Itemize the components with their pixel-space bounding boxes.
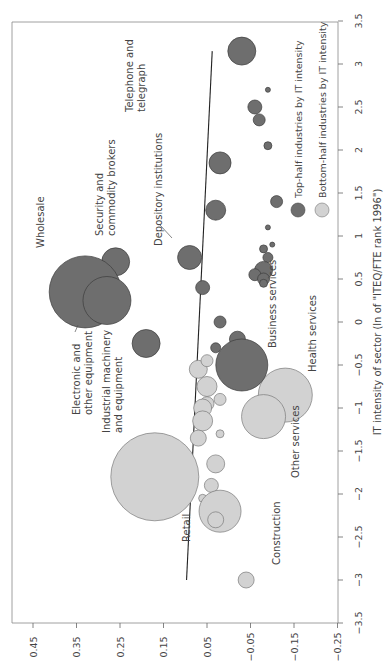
bubble bbox=[265, 225, 270, 230]
bubble bbox=[270, 242, 275, 247]
bubble bbox=[111, 433, 199, 521]
bubble bbox=[265, 87, 270, 92]
bubble bbox=[197, 377, 217, 397]
it-tick-label: −1 bbox=[353, 401, 364, 415]
label-health: Health services bbox=[307, 295, 318, 372]
it-tick-label: 1.5 bbox=[353, 185, 364, 200]
it-tick-label: 1 bbox=[353, 233, 364, 239]
growth-tick-label: −0.25 bbox=[332, 632, 343, 661]
legend-top-swatch bbox=[291, 203, 305, 217]
bubble bbox=[206, 200, 226, 220]
it-tick-label: −2 bbox=[353, 487, 364, 501]
bubble-chart: −3.5−3−2.5−2−1.5−1−0.500.511.522.533.5 0… bbox=[0, 0, 389, 670]
bubble bbox=[208, 512, 224, 528]
it-tick-label: 3 bbox=[353, 61, 364, 67]
legend-top-label: Top-half industries by IT intensity bbox=[293, 40, 304, 199]
bubble bbox=[253, 114, 265, 126]
bubble bbox=[83, 277, 131, 325]
legend-bottom-swatch bbox=[315, 203, 329, 217]
bubble bbox=[271, 196, 283, 208]
it-tick-label: 2.5 bbox=[353, 99, 364, 114]
label-wholesale: Wholesale bbox=[35, 196, 46, 248]
it-tick-label: 2 bbox=[353, 147, 364, 153]
label-construction: Construction bbox=[271, 501, 282, 565]
label-electronic: Electronic and other equipment bbox=[71, 331, 94, 415]
label-other: Other services bbox=[290, 405, 301, 478]
growth-axis: 0.450.350.250.150.05−0.05−0.15−0.25 bbox=[28, 623, 344, 662]
growth-tick-label: −0.05 bbox=[245, 632, 256, 661]
bubble bbox=[196, 281, 210, 295]
bubble bbox=[216, 339, 268, 391]
bottom-half-bubbles bbox=[111, 355, 312, 588]
bubble bbox=[193, 411, 213, 431]
bubble bbox=[238, 572, 254, 588]
bubble bbox=[211, 343, 221, 353]
bubble bbox=[242, 395, 286, 439]
label-security: Security and commodity brokers bbox=[94, 139, 117, 236]
bubble bbox=[201, 355, 213, 367]
it-tick-label: 0.5 bbox=[353, 271, 364, 286]
bubble bbox=[209, 152, 231, 174]
bubble bbox=[214, 393, 226, 405]
it-tick-label: 0 bbox=[353, 319, 364, 325]
growth-tick-label: 0.15 bbox=[158, 636, 169, 657]
legend: Top-half industries by IT intensity Bott… bbox=[291, 21, 329, 217]
growth-tick-label: 0.05 bbox=[202, 636, 213, 657]
bubble bbox=[207, 455, 225, 473]
bubble bbox=[132, 330, 160, 358]
it-tick-label: −1.5 bbox=[353, 439, 364, 462]
it-tick-label: −2.5 bbox=[353, 525, 364, 548]
bubble bbox=[216, 430, 224, 438]
it-tick-label: −3.5 bbox=[353, 611, 364, 634]
label-retail: Retail bbox=[181, 514, 192, 542]
it-axis-title: IT intensity of sector (ln of "ITEQ/FTE … bbox=[372, 189, 383, 436]
growth-tick-label: 0.25 bbox=[115, 636, 126, 657]
it-intensity-axis: −3.5−3−2.5−2−1.5−1−0.500.511.522.533.5 bbox=[338, 13, 364, 634]
bubble bbox=[248, 100, 262, 114]
bubble bbox=[260, 245, 268, 253]
bubble bbox=[190, 430, 206, 446]
label-industrial: Industrial machinery and equipment bbox=[101, 327, 124, 433]
legend-bottom-label: Bottom-half industries by IT intensity bbox=[317, 21, 328, 198]
growth-tick-label: 0.35 bbox=[71, 636, 82, 657]
it-tick-label: −3 bbox=[353, 573, 364, 587]
it-tick-label: 3.5 bbox=[353, 13, 364, 28]
label-business: Business services bbox=[267, 260, 278, 348]
plot-frame bbox=[12, 22, 338, 623]
growth-tick-label: 0.45 bbox=[28, 636, 39, 657]
bubble bbox=[228, 37, 256, 65]
growth-tick-label: −0.15 bbox=[289, 632, 300, 661]
label-telephone: Telephone and telegraph bbox=[124, 36, 147, 113]
it-tick-label: −0.5 bbox=[353, 353, 364, 376]
label-depository: Depository institutions bbox=[153, 133, 164, 246]
bubble bbox=[178, 246, 202, 270]
bubble bbox=[264, 142, 272, 150]
bubble bbox=[214, 316, 226, 328]
